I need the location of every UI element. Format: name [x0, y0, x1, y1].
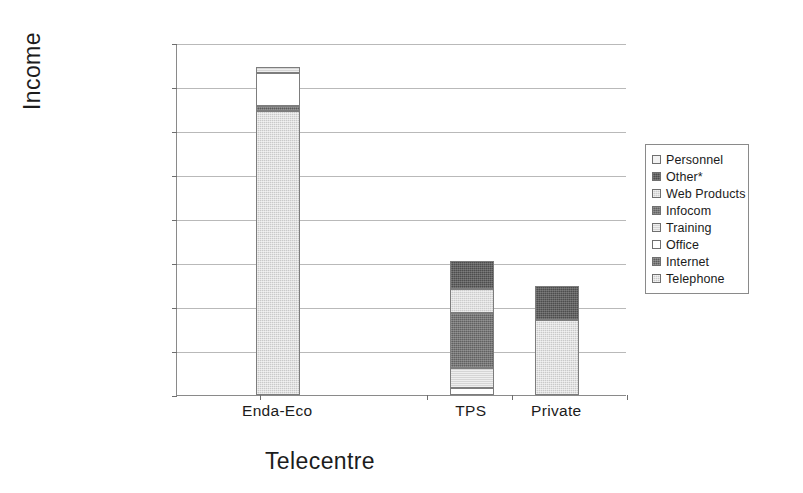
- plot-area: 1600000140000012000001000000800000600000…: [176, 44, 626, 396]
- y-axis-title: Income: [18, 0, 50, 110]
- segment-infocom[interactable]: [450, 313, 494, 368]
- legend-swatch-icon: [652, 172, 661, 181]
- legend-label: Internet: [666, 255, 709, 269]
- segment-training[interactable]: [256, 67, 300, 73]
- legend-swatch-icon: [652, 240, 661, 249]
- x-category-label-enda-eco: Enda-Eco: [217, 402, 337, 420]
- segment-training[interactable]: [450, 368, 494, 389]
- y-tick-400000: [172, 308, 177, 309]
- legend-swatch-icon: [652, 223, 661, 232]
- legend-item-infocom[interactable]: Infocom: [652, 202, 743, 219]
- gridline-1000000: [177, 176, 626, 177]
- legend-swatch-icon: [652, 206, 661, 215]
- legend-label: Infocom: [666, 204, 711, 218]
- x-tick-1: [260, 395, 261, 400]
- y-tick-1000000: [172, 176, 177, 177]
- bar-enda-eco[interactable]: [256, 67, 300, 395]
- legend-label: Web Products: [666, 187, 745, 201]
- legend-swatch-icon: [652, 274, 661, 283]
- segment-web-products[interactable]: [450, 289, 494, 312]
- segment-office[interactable]: [256, 73, 300, 106]
- x-category-label-private: Private: [496, 402, 616, 420]
- y-tick-600000: [172, 264, 177, 265]
- legend-label: Personnel: [666, 153, 723, 167]
- legend-swatch-icon: [652, 257, 661, 266]
- bar-tps[interactable]: [450, 262, 494, 395]
- legend-label: Training: [666, 221, 712, 235]
- x-axis-title: Telecentre: [0, 448, 640, 475]
- legend-swatch-icon: [652, 155, 661, 164]
- segment-office[interactable]: [450, 388, 494, 395]
- bar-private[interactable]: [535, 286, 579, 395]
- segment-telephone[interactable]: [256, 111, 300, 395]
- gridline-1600000: [177, 44, 626, 45]
- x-tick-2: [427, 395, 428, 400]
- gridline-800000: [177, 220, 626, 221]
- gridline-600000: [177, 264, 626, 265]
- chart-canvas: Income 160000014000001200000100000080000…: [0, 0, 803, 493]
- legend-item-telephone[interactable]: Telephone: [652, 270, 743, 287]
- legend-label: Office: [666, 238, 699, 252]
- chart-legend: PersonnelOther*Web ProductsInfocomTraini…: [645, 144, 749, 294]
- legend-swatch-icon: [652, 189, 661, 198]
- y-tick-1400000: [172, 88, 177, 89]
- y-tick-1200000: [172, 132, 177, 133]
- legend-item-internet[interactable]: Internet: [652, 253, 743, 270]
- x-tick-3: [512, 395, 513, 400]
- legend-label: Other*: [666, 170, 703, 184]
- legend-item-web-products[interactable]: Web Products: [652, 185, 743, 202]
- y-tick-200000: [172, 352, 177, 353]
- legend-item-other-[interactable]: Other*: [652, 168, 743, 185]
- segment-telephone[interactable]: [535, 320, 579, 395]
- y-tick-800000: [172, 220, 177, 221]
- gridline-1400000: [177, 88, 626, 89]
- segment-internet[interactable]: [256, 106, 300, 112]
- y-tick-1600000: [172, 44, 177, 45]
- legend-item-training[interactable]: Training: [652, 219, 743, 236]
- segment-other-[interactable]: [450, 261, 494, 290]
- gridline-1200000: [177, 132, 626, 133]
- y-tick-0: [172, 396, 177, 397]
- legend-label: Telephone: [666, 272, 725, 286]
- legend-item-personnel[interactable]: Personnel: [652, 151, 743, 168]
- y-axis-title-text: Income: [19, 32, 46, 110]
- x-tick-4: [627, 395, 628, 400]
- segment-other-[interactable]: [535, 286, 579, 321]
- legend-item-office[interactable]: Office: [652, 236, 743, 253]
